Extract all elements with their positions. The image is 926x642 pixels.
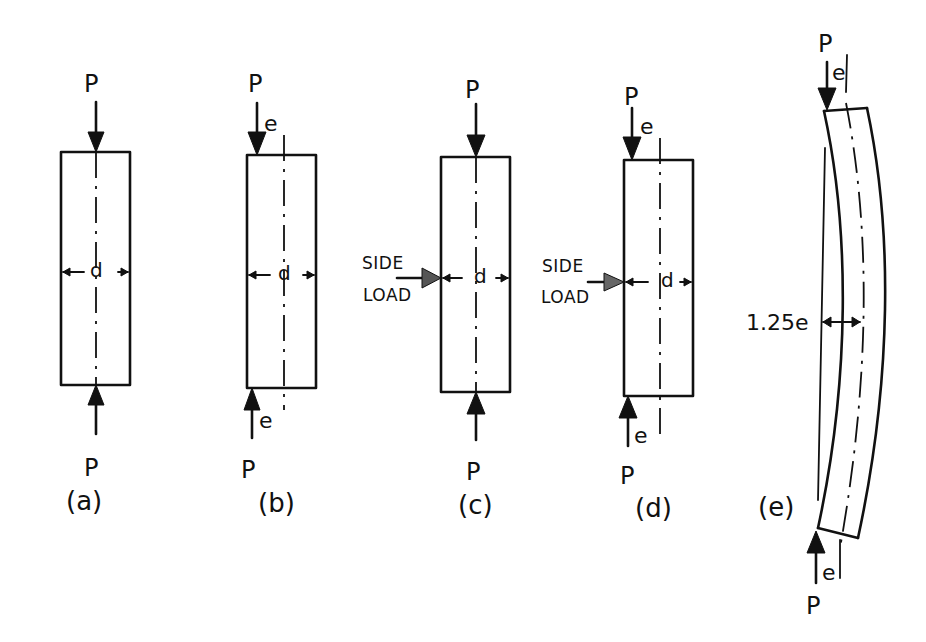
panel-d-bottom-load-label: P	[620, 464, 634, 488]
panel-e-bottom-load-label: P	[806, 594, 820, 618]
panel-d-column	[588, 108, 693, 446]
panel-a-caption: (a)	[66, 488, 102, 514]
panel-a-width-label: d	[90, 260, 103, 280]
panel-d-top-load-label: P	[624, 85, 638, 109]
panel-d-top-eccentricity-label: e	[640, 116, 654, 138]
panel-c-top-load-label: P	[465, 78, 479, 102]
panel-e-deflection-label: 1.25e	[746, 312, 809, 334]
column-loading-diagram: P d P (a) P e d e P (b) P SIDE LOAD d P …	[0, 0, 926, 642]
panel-c-column	[397, 104, 510, 440]
panel-e-bottom-eccentricity-label: e	[822, 562, 836, 584]
panel-b-top-load-label: P	[248, 72, 262, 96]
panel-d-bottom-eccentricity-label: e	[634, 425, 648, 447]
panel-c-side-load-line2: LOAD	[363, 287, 412, 304]
panel-c-side-load-line1: SIDE	[362, 255, 404, 272]
panel-d-side-load-line2: LOAD	[541, 289, 590, 306]
panel-e-column	[807, 55, 885, 583]
panel-b-top-eccentricity-label: e	[264, 113, 278, 135]
panel-b-width-label: d	[278, 263, 291, 283]
panel-c-width-label: d	[474, 266, 487, 286]
panel-e-top-eccentricity-label: e	[832, 62, 846, 84]
panel-d-width-label: d	[661, 270, 674, 290]
panel-d-caption: (d)	[635, 495, 672, 521]
panel-e-top-load-label: P	[818, 32, 832, 56]
panel-d-side-load-line1: SIDE	[542, 258, 584, 275]
panel-b-bottom-eccentricity-label: e	[259, 410, 273, 432]
panel-a-bottom-load-label: P	[84, 456, 98, 480]
panel-a-top-load-label: P	[84, 72, 98, 96]
panel-c-bottom-load-label: P	[466, 460, 480, 484]
panel-b-bottom-load-label: P	[241, 458, 255, 482]
panel-b-caption: (b)	[258, 490, 295, 516]
panel-e-caption: (e)	[758, 494, 794, 520]
panel-c-caption: (c)	[458, 492, 493, 518]
